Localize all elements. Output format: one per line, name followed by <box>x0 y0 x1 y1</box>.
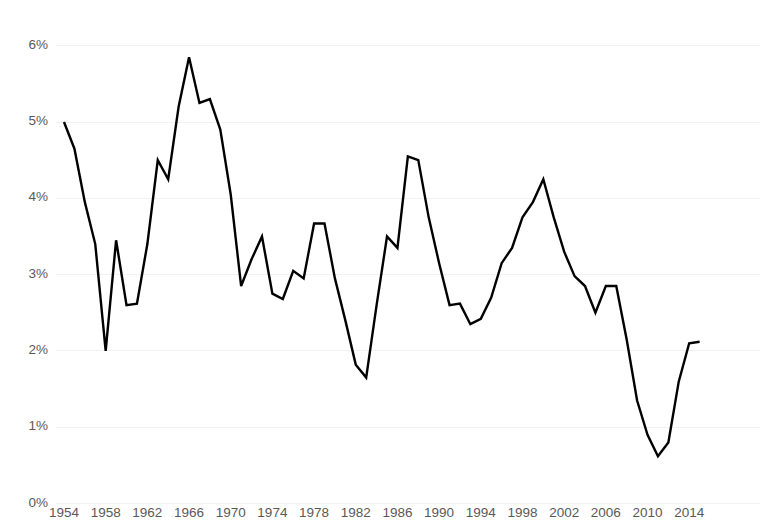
y-axis-tick-label: 2% <box>0 342 48 357</box>
y-axis-tick-label: 1% <box>0 418 48 433</box>
y-axis-tick-label: 5% <box>0 113 48 128</box>
x-axis-tick-label: 2014 <box>665 505 713 520</box>
y-axis-tick-label: 4% <box>0 189 48 204</box>
y-axis-tick-label: 6% <box>0 37 48 52</box>
chart-container: 0%1%2%3%4%5%6%19541958196219661970197419… <box>0 0 769 527</box>
y-axis-tick-label: 3% <box>0 266 48 281</box>
data-series-line <box>64 57 700 456</box>
line-chart-plot <box>0 0 769 527</box>
